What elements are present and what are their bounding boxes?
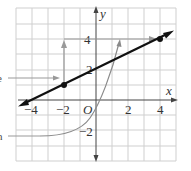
- x-axis-arrow-icon: [171, 98, 178, 103]
- x-tick-2: 2: [125, 102, 132, 117]
- cropped-label-bottom: n: [0, 130, 3, 142]
- cropped-label-top: e: [0, 72, 2, 84]
- y-axis-label: y: [98, 6, 106, 21]
- x-tick-4: 4: [157, 102, 164, 117]
- x-tick-minus-2: −2: [56, 102, 70, 117]
- y-axis-arrow-up-icon: [94, 6, 99, 13]
- x-axis-label: x: [165, 83, 172, 98]
- curve-arrowhead-icon: [117, 39, 122, 47]
- rise-arrowhead-icon: [61, 40, 67, 48]
- leader-arrowhead-icon: [53, 76, 60, 81]
- point-4-4: [157, 36, 163, 42]
- main-line-arrow-right-icon: [163, 31, 174, 39]
- point-minus2-1: [61, 82, 67, 88]
- coordinate-plane: y x O −4 −2 2 4 4 2 −2 e n: [0, 0, 191, 171]
